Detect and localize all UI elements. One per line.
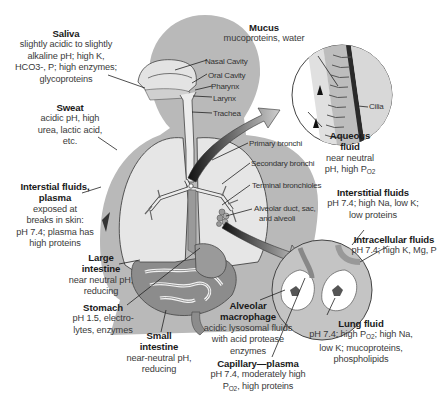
intracellular-fluids-title: Intracellular fluids: [351, 234, 437, 245]
aqueous-fluid-po2-prefix: pH, high P: [325, 164, 367, 174]
stomach-line-1: pH 1.5, electro-: [72, 313, 134, 324]
small-intestine-line-2: reducing: [124, 364, 194, 375]
sweat-title: Sweat: [30, 102, 110, 113]
alveolar-duct-label-2: and alveoli: [259, 214, 295, 223]
alveolar-macrophage-callout: Alveolar macrophage acidic lysosomal flu…: [198, 300, 298, 357]
terminal-bronchioles-label: Terminal bronchioles: [252, 181, 321, 190]
interstitial-fluids-line-2: low proteins: [318, 210, 428, 221]
interstitial-skin-line-3: pH 7.4; plasma has: [10, 227, 100, 238]
lung-fluid-line-2: low K; mucoproteins,: [306, 343, 416, 354]
mucus-line-1: mucoproteins, water: [214, 33, 314, 44]
capillary-plasma-po2-sub: O2: [229, 385, 237, 392]
aqueous-fluid-line-2: pH, high PO2: [318, 164, 382, 177]
large-intestine-title-1: Large: [66, 252, 136, 263]
interstitial-fluids-title: Interstitial fluids: [318, 187, 428, 198]
lung-fluid-title: Lung fluid: [306, 318, 416, 329]
mucus-callout: Mucus mucoproteins, water: [214, 22, 314, 45]
interstitial-skin-line-2: breaks in skin:: [10, 215, 100, 226]
trachea-label: Trachea: [213, 109, 241, 118]
interstitial-fluids-callout: Interstitial fluids pH 7.4; high Na, low…: [318, 187, 428, 221]
saliva-title: Saliva: [8, 28, 124, 39]
interstitial-skin-line-1: exposed at: [10, 204, 100, 215]
small-intestine-title-1: Small: [124, 330, 194, 341]
large-intestine-line-2: reducing: [66, 286, 136, 297]
capillary-plasma-line-2: PO2, high proteins: [206, 381, 310, 394]
lung-fluid-line-1: pH 7.4; high PO2; high Na,: [306, 329, 416, 342]
alveolar-macrophage-line-3: enzymes: [198, 346, 298, 357]
body-fluids-diagram: Nasal Cavity Oral Cavity Pharynx Larynx …: [0, 0, 437, 405]
aqueous-fluid-callout: Aqueous fluid near neutral pH, high PO2: [318, 130, 382, 178]
lung-fluid-po2-suffix: ; high Na,: [374, 329, 412, 339]
interstitial-skin-callout: Interstial fluids, plasma exposed at bre…: [10, 181, 100, 249]
saliva-line-1: slightly acidic to slightly: [8, 39, 124, 50]
large-intestine-title-2: intestine: [66, 263, 136, 274]
lung-fluid-callout: Lung fluid pH 7.4; high PO2; high Na, lo…: [306, 318, 416, 366]
small-intestine-line-1: near-neutral pH,: [124, 353, 194, 364]
sweat-line-2: urea, lactic acid,: [30, 125, 110, 136]
secondary-bronchi-label: Secondary bronchi: [251, 159, 314, 168]
alveolar-macrophage-title-2: macrophage: [198, 311, 298, 322]
primary-bronchi-label: Primary bronchi: [249, 139, 302, 148]
interstitial-skin-title-1: Interstial fluids,: [10, 181, 100, 192]
nasal-cavity-label: Nasal Cavity: [205, 57, 248, 66]
interstitial-skin-title-2: plasma: [10, 192, 100, 203]
capillary-plasma-line-1: pH 7.4, moderately high: [206, 369, 310, 380]
saliva-callout: Saliva slightly acidic to slightly alkal…: [8, 28, 124, 85]
alveolar-duct-label-1: Alveolar duct, sac,: [254, 204, 316, 213]
large-intestine-line-1: near neutral pH,: [66, 275, 136, 286]
stomach-title: Stomach: [72, 302, 134, 313]
intracellular-fluids-line-1: pH 7.4; high K, Mg, P: [351, 245, 437, 256]
saliva-line-2: alkaline pH; high K,: [8, 51, 124, 62]
intracellular-fluids-callout: Intracellular fluids pH 7.4; high K, Mg,…: [351, 234, 437, 257]
oral-cavity-label: Oral Cavity: [208, 71, 245, 80]
small-intestine-title-2: intestine: [124, 341, 194, 352]
aqueous-fluid-title-2: fluid: [318, 141, 382, 152]
pharynx-label: Pharynx: [211, 82, 239, 91]
saliva-line-4: glycoproteins: [8, 74, 124, 85]
lung-fluid-po2-prefix: pH 7.4; high P: [309, 329, 366, 339]
lung-fluid-line-3: phospholipids: [306, 354, 416, 365]
aqueous-fluid-title-1: Aqueous: [318, 130, 382, 141]
saliva-line-3: HCO3-, P; high enzymes;: [8, 62, 124, 73]
alveolar-macrophage-line-1: acidic lysosomal fluids: [198, 323, 298, 334]
sweat-line-1: acidic pH, high: [30, 113, 110, 124]
larynx-label: Larynx: [213, 94, 236, 103]
alveolar-macrophage-line-2: with acid protease: [198, 334, 298, 345]
mucus-title: Mucus: [214, 22, 314, 33]
sweat-line-3: etc.: [30, 136, 110, 147]
large-intestine-callout: Large intestine near neutral pH, reducin…: [66, 252, 136, 298]
small-intestine-callout: Small intestine near-neutral pH, reducin…: [124, 330, 194, 376]
capillary-plasma-callout: Capillary—plasma pH 7.4, moderately high…: [206, 358, 310, 394]
sweat-callout: Sweat acidic pH, high urea, lactic acid,…: [30, 102, 110, 148]
cilia-label: Cilia: [369, 102, 384, 111]
interstitial-fluids-line-1: pH 7.4; high Na, low K;: [318, 198, 428, 209]
aqueous-fluid-line-1: near neutral: [318, 153, 382, 164]
capillary-plasma-po2-suffix: , high proteins: [237, 381, 293, 391]
alveolar-macrophage-title-1: Alveolar: [198, 300, 298, 311]
interstitial-skin-line-4: high proteins: [10, 238, 100, 249]
capillary-plasma-title: Capillary—plasma: [206, 358, 310, 369]
aqueous-fluid-po2-sub: O2: [367, 168, 375, 175]
